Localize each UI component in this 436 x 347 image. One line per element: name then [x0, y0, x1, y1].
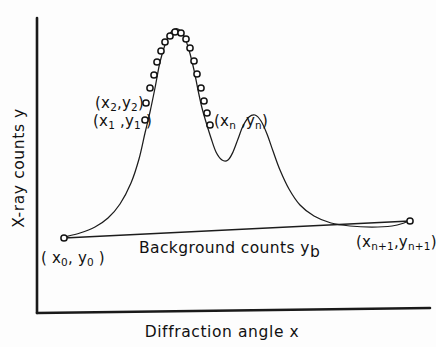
- y-axis-title: X-ray counts y: [10, 108, 28, 228]
- label-point-n-plus-1: (xn+1,yn+1): [356, 233, 436, 252]
- data-point-marker: [204, 110, 210, 116]
- data-point-marker: [198, 85, 204, 91]
- background-counts-caption: Background counts yb: [139, 239, 320, 261]
- data-point-marker: [154, 59, 160, 65]
- data-point-marker: [151, 72, 157, 78]
- label-point-1: (x1 ,y1 ): [93, 112, 152, 131]
- x-axis-line: [37, 308, 430, 313]
- data-point-marker: [178, 30, 184, 36]
- label-point-n: (xn ,yn): [214, 112, 268, 131]
- data-point-marker: [187, 45, 193, 51]
- data-point-marker: [183, 36, 189, 42]
- diffraction-figure: (x2,y2) (x1 ,y1 ) (xn ,yn) ( x0, y0 ) (x…: [0, 0, 436, 347]
- data-point-point-0: [61, 235, 67, 241]
- x-axis-title: Diffraction angle x: [145, 323, 300, 341]
- diffraction-profile-curve: [64, 29, 410, 237]
- data-point-markers: [61, 29, 413, 241]
- figure-container: (x2,y2) (x1 ,y1 ) (xn ,yn) ( x0, y0 ) (x…: [0, 0, 436, 347]
- data-point-marker: [191, 58, 197, 64]
- data-point-marker: [162, 39, 168, 45]
- data-point-marker: [147, 85, 153, 91]
- data-point-point-n: [207, 122, 213, 128]
- label-point-0: ( x0, y0 ): [41, 249, 105, 268]
- label-point-2: (x2,y2): [95, 94, 144, 113]
- data-point-marker: [194, 71, 200, 77]
- data-point-marker: [201, 98, 207, 104]
- data-point-point-n-plus-1: [407, 218, 413, 224]
- data-point-marker: [158, 48, 164, 54]
- data-point-marker: [172, 29, 178, 35]
